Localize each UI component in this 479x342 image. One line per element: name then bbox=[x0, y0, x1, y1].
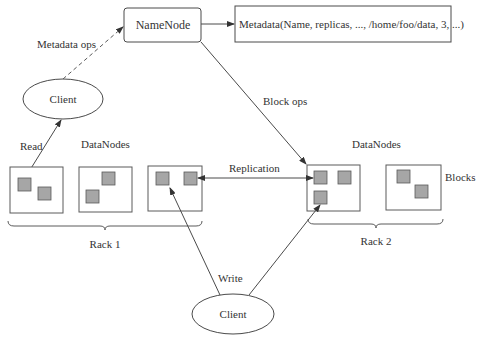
block-icon bbox=[18, 178, 31, 191]
block-icon bbox=[156, 172, 169, 185]
block-icon bbox=[102, 172, 115, 185]
rack2-label: Rack 2 bbox=[361, 235, 392, 247]
block-icon bbox=[86, 190, 99, 203]
blocks-label: Blocks bbox=[445, 171, 476, 183]
block-icon bbox=[314, 191, 327, 204]
block-icon bbox=[415, 185, 428, 198]
write-arrow-rack2 bbox=[249, 205, 320, 295]
metadata-ops-label: Metadata ops bbox=[37, 38, 96, 50]
rack1-datanode-2[interactable] bbox=[79, 167, 132, 212]
write-label: Write bbox=[218, 272, 243, 284]
rack2-datanode-2[interactable] bbox=[386, 165, 441, 210]
metadata-label: Metadata(Name, replicas, ..., /home/foo/… bbox=[239, 18, 464, 30]
replication-label: Replication bbox=[229, 162, 280, 174]
client-top-label: Client bbox=[50, 93, 77, 105]
block-icon bbox=[38, 187, 51, 200]
rack1-datanode-3[interactable] bbox=[148, 166, 202, 211]
rack1-datanode-1[interactable] bbox=[10, 167, 63, 213]
block-icon bbox=[397, 170, 410, 183]
block-icon bbox=[314, 171, 327, 184]
datanodes-left-label: DataNodes bbox=[81, 138, 130, 150]
block-icon bbox=[184, 172, 197, 185]
datanodes-right-label: DataNodes bbox=[352, 138, 401, 150]
read-label: Read bbox=[20, 140, 43, 152]
metadata-ops-arrow bbox=[63, 27, 123, 79]
block-icon bbox=[338, 171, 351, 184]
block-ops-label: Block ops bbox=[263, 95, 307, 107]
rack2-brace bbox=[308, 219, 443, 228]
client-bottom-label: Client bbox=[220, 308, 247, 320]
rack1-label: Rack 1 bbox=[90, 238, 121, 250]
rack2-datanode-1[interactable] bbox=[307, 165, 360, 211]
rack1-brace bbox=[8, 221, 202, 230]
namenode-label: NameNode bbox=[136, 19, 191, 31]
